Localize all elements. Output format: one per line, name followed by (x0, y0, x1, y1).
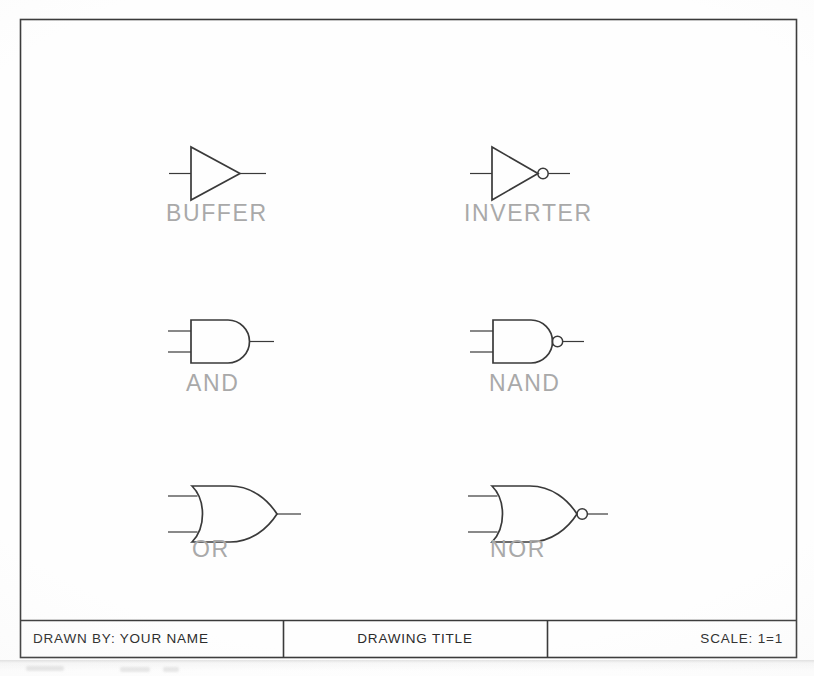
title-block-scale: SCALE: 1=1 (547, 632, 783, 646)
title-block-drawn-by: DRAWN BY: YOUR NAME (33, 632, 209, 646)
gate-symbol-or (168, 486, 301, 542)
nor-bubble-icon (577, 509, 587, 519)
and-body (191, 320, 250, 363)
gate-symbol-nor (468, 486, 608, 542)
gate-symbol-buffer (169, 147, 266, 200)
nand-body (493, 320, 553, 363)
drawing-sheet: BUFFER INVERTER AND NAND OR NOR DRAWN BY… (0, 0, 814, 676)
gate-label-inverter: INVERTER (464, 202, 593, 225)
gate-label-nand: NAND (489, 372, 561, 395)
nand-bubble-icon (552, 336, 562, 346)
gate-label-nor: NOR (490, 538, 546, 561)
gate-label-or: OR (192, 538, 230, 561)
gate-symbol-and (168, 320, 274, 363)
sheet-border (21, 20, 797, 658)
gate-symbol-inverter (470, 147, 570, 200)
or-body (192, 486, 277, 542)
gate-label-buffer: BUFFER (166, 202, 268, 225)
cad-drawing-canvas (0, 0, 814, 676)
gate-symbol-nand (470, 320, 584, 363)
title-block-drawing-title: DRAWING TITLE (283, 632, 547, 646)
inverter-body (492, 147, 538, 200)
buffer-body (191, 147, 240, 200)
nor-body (492, 486, 577, 542)
gate-label-and: AND (186, 372, 239, 395)
